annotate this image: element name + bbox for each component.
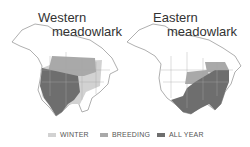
all-year-swatch [157, 133, 165, 137]
legend-label: ALL YEAR [169, 131, 204, 138]
legend-label: BREEDING [112, 131, 150, 138]
winter-swatch [48, 133, 56, 137]
western-meadowlark-map: Western meadowlark [0, 0, 125, 120]
map-title-line2: meadowlark [52, 25, 122, 38]
legend-item-all-year: ALL YEAR [157, 131, 204, 138]
map-title-line2: meadowlark [167, 25, 237, 38]
map-title-line1: Western [38, 11, 86, 24]
legend: WINTER BREEDING ALL YEAR [0, 128, 250, 142]
legend-label: WINTER [60, 131, 89, 138]
eastern-meadowlark-map: Eastern meadowlark [125, 0, 250, 120]
breeding-swatch [100, 133, 108, 137]
legend-item-winter: WINTER [48, 131, 89, 138]
map-title-line1: Eastern [153, 11, 198, 24]
legend-item-breeding: BREEDING [100, 131, 150, 138]
